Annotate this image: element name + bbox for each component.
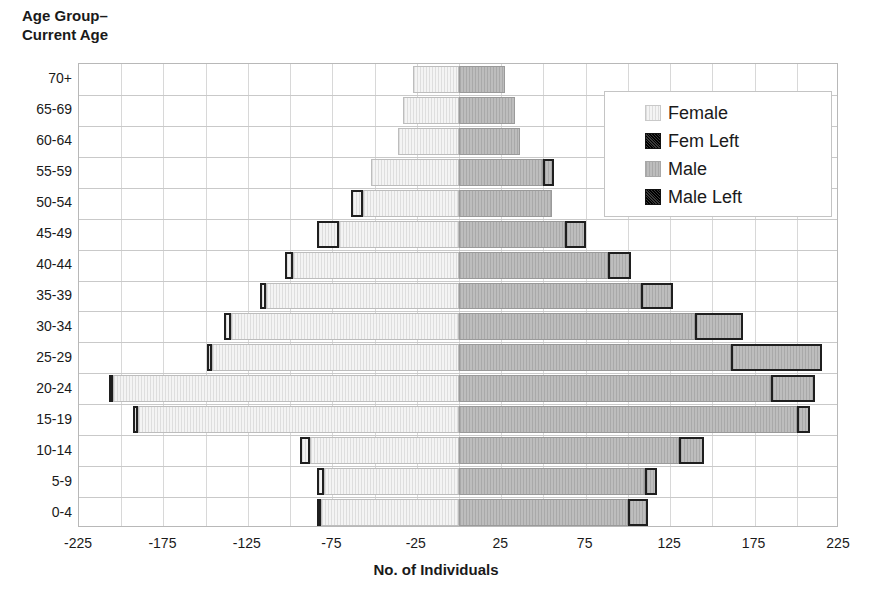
chart-legend: FemaleFem LeftMaleMale Left [604, 91, 832, 217]
x-axis-tick-125: 125 [634, 535, 704, 551]
bar-segment-male-left-25-29 [731, 344, 822, 371]
bar-segment-male-0-4 [459, 499, 628, 526]
bar-segment-female-0-4 [321, 499, 459, 526]
bar-segment-fem-left-10-14 [300, 437, 310, 464]
y-axis-tick-60-64: 60-64 [2, 132, 72, 148]
legend-item-male: Male [605, 155, 831, 183]
bar-segment-male-5-9 [459, 468, 645, 495]
bar-segment-male-20-24 [459, 375, 771, 402]
bar-segment-fem-left-50-54 [351, 190, 363, 217]
bar-segment-male-left-15-19 [797, 406, 811, 433]
bar-segment-female-65-69 [403, 97, 459, 124]
legend-swatch-male [645, 161, 661, 177]
bar-row [79, 497, 837, 528]
bar-row [79, 466, 837, 497]
bar-segment-fem-left-30-34 [224, 313, 231, 340]
bar-segment-male-left-35-39 [641, 283, 673, 310]
bar-segment-male-25-29 [459, 344, 731, 371]
y-axis-title: Age Group– Current Age [22, 6, 108, 44]
bar-segment-male-55-59 [459, 159, 543, 186]
bar-segment-fem-left-15-19 [133, 406, 138, 433]
bar-segment-female-35-39 [266, 283, 459, 310]
bar-segment-male-35-39 [459, 283, 641, 310]
y-axis-tick-70+: 70+ [2, 70, 72, 86]
y-axis-tick-45-49: 45-49 [2, 225, 72, 241]
bar-segment-male-30-34 [459, 313, 695, 340]
y-axis-tick-55-59: 55-59 [2, 163, 72, 179]
bar-segment-male-left-10-14 [679, 437, 704, 464]
bar-segment-male-left-45-49 [565, 221, 585, 248]
x-axis-tick--175: -175 [127, 535, 197, 551]
bar-segment-male-left-5-9 [645, 468, 657, 495]
bar-segment-male-70+ [459, 66, 505, 93]
bar-segment-male-left-40-44 [608, 252, 632, 279]
bar-segment-fem-left-40-44 [285, 252, 293, 279]
bar-segment-male-50-54 [459, 190, 552, 217]
y-axis-tick-35-39: 35-39 [2, 287, 72, 303]
x-axis-tick-25: 25 [465, 535, 535, 551]
bar-row [79, 373, 837, 404]
bar-segment-male-left-30-34 [695, 313, 742, 340]
bar-segment-male-left-55-59 [543, 159, 553, 186]
x-axis-tick--25: -25 [381, 535, 451, 551]
legend-item-maleleft: Male Left [605, 183, 831, 211]
y-axis-tick-30-34: 30-34 [2, 318, 72, 334]
bar-segment-male-10-14 [459, 437, 679, 464]
y-axis-tick-10-14: 10-14 [2, 442, 72, 458]
x-axis-tick-75: 75 [550, 535, 620, 551]
bar-segment-female-40-44 [293, 252, 459, 279]
bar-segment-female-20-24 [113, 375, 459, 402]
x-axis-tick--125: -125 [212, 535, 282, 551]
bar-segment-male-65-69 [459, 97, 515, 124]
bar-segment-fem-left-20-24 [109, 375, 113, 402]
bar-segment-female-50-54 [363, 190, 459, 217]
bar-segment-fem-left-25-29 [207, 344, 212, 371]
legend-swatch-fem [645, 105, 661, 121]
y-axis-tick-5-9: 5-9 [2, 473, 72, 489]
y-axis-tick-20-24: 20-24 [2, 380, 72, 396]
bar-segment-female-55-59 [371, 159, 459, 186]
y-axis-tick-40-44: 40-44 [2, 256, 72, 272]
legend-label: Fem Left [668, 131, 739, 152]
bar-segment-male-left-0-4 [628, 499, 648, 526]
y-axis-tick-50-54: 50-54 [2, 194, 72, 210]
bar-segment-female-5-9 [324, 468, 459, 495]
y-axis-tick-65-69: 65-69 [2, 101, 72, 117]
bar-segment-male-60-64 [459, 128, 520, 155]
legend-swatch-maleleft [645, 189, 661, 205]
x-axis-title: No. of Individuals [0, 560, 872, 579]
bar-row [79, 435, 837, 466]
bar-row [79, 342, 837, 373]
y-axis-tick-25-29: 25-29 [2, 349, 72, 365]
bar-segment-fem-left-5-9 [317, 468, 324, 495]
bar-segment-female-45-49 [339, 221, 459, 248]
legend-swatch-femleft [645, 133, 661, 149]
bar-segment-male-15-19 [459, 406, 797, 433]
bar-segment-fem-left-0-4 [317, 499, 321, 526]
bar-row [79, 281, 837, 312]
bar-segment-male-45-49 [459, 221, 565, 248]
bar-row [79, 219, 837, 250]
bar-segment-female-10-14 [310, 437, 459, 464]
legend-item-femleft: Fem Left [605, 127, 831, 155]
y-axis-tick-0-4: 0-4 [2, 504, 72, 520]
x-axis-tick--75: -75 [296, 535, 366, 551]
bar-segment-female-60-64 [398, 128, 459, 155]
legend-label: Female [668, 103, 728, 124]
bar-segment-male-40-44 [459, 252, 608, 279]
bar-row [79, 311, 837, 342]
bar-segment-female-70+ [413, 66, 459, 93]
legend-item-fem: Female [605, 99, 831, 127]
bar-segment-male-left-20-24 [771, 375, 815, 402]
bar-segment-female-25-29 [212, 344, 459, 371]
legend-label: Male [668, 159, 707, 180]
x-axis-tick-225: 225 [803, 535, 872, 551]
bar-segment-female-15-19 [138, 406, 459, 433]
legend-label: Male Left [668, 187, 742, 208]
x-axis-tick--225: -225 [43, 535, 113, 551]
bar-segment-fem-left-35-39 [260, 283, 267, 310]
y-axis-tick-15-19: 15-19 [2, 411, 72, 427]
bar-row [79, 404, 837, 435]
bar-segment-fem-left-45-49 [317, 221, 339, 248]
x-axis-tick-175: 175 [719, 535, 789, 551]
